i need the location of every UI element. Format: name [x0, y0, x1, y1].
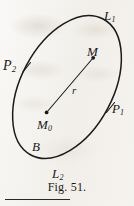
label-p1-sub: 1	[120, 108, 124, 117]
label-l1-sub: 1	[111, 15, 115, 24]
figure-caption: Fig. 51.	[0, 180, 134, 195]
point-m0-dot	[45, 111, 49, 115]
figure-page: L1 P2 M r P1 M0 B L2 Fig. 51.	[0, 0, 134, 206]
label-p1-base: P	[112, 101, 120, 116]
label-r: r	[72, 85, 76, 96]
label-p1: P1	[112, 102, 124, 115]
label-m: M	[87, 45, 98, 58]
label-l1: L1	[104, 9, 115, 22]
footnote-separator-rule	[5, 199, 70, 200]
radius-segment	[47, 58, 93, 112]
label-p2: P2	[3, 59, 16, 73]
label-p2-sub: 2	[12, 64, 16, 74]
label-m0-sub: 0	[48, 124, 52, 133]
label-p2-base: P	[3, 58, 12, 73]
label-b: B	[32, 140, 40, 153]
label-b-base: B	[32, 139, 40, 154]
label-r-base: r	[72, 84, 76, 96]
label-m-base: M	[87, 44, 98, 59]
label-m0-base: M	[37, 117, 48, 132]
label-m0: M0	[37, 118, 52, 131]
label-l2: L2	[52, 167, 63, 180]
